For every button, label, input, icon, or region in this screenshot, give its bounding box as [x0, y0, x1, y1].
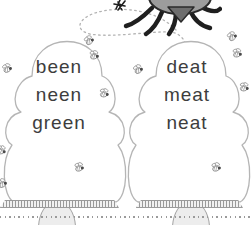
hive-word: neat	[124, 109, 250, 137]
bee-icon	[87, 49, 102, 62]
beehive-left: beenneengreen	[2, 40, 128, 210]
bee-icon	[210, 161, 224, 173]
hive-word: meat	[124, 81, 250, 109]
bee-icon	[131, 63, 146, 76]
hive-word: been	[0, 53, 122, 81]
beehive-base-left	[0, 200, 119, 208]
bee-icon	[230, 47, 245, 60]
bug-antenna-scribble	[114, 0, 125, 10]
bee-icon	[73, 161, 87, 173]
bee-icon	[1, 62, 15, 74]
dotted-rule	[0, 216, 251, 218]
worksheet-page: beenneengreen deatmeatneat	[0, 0, 251, 225]
beehive-base-right	[136, 200, 243, 208]
beehive-right: deatmeatneat	[126, 40, 251, 210]
bug-icon	[112, 0, 222, 38]
hive-word: green	[0, 109, 122, 137]
